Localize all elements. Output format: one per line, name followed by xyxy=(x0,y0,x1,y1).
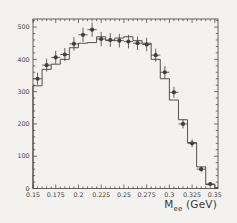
histogram-figure: 0.150.1750.20.2250.250.2750.30.3250.3501… xyxy=(0,0,237,223)
chart-canvas: 0.150.1750.20.2250.250.2750.30.3250.3501… xyxy=(0,0,237,223)
x-axis-tick-label: 0.3 xyxy=(164,191,174,198)
data-point-marker xyxy=(172,90,176,94)
y-axis-tick-label: 500 xyxy=(17,23,29,30)
data-point-marker xyxy=(181,122,185,126)
data-point-marker xyxy=(199,167,203,171)
data-point-marker xyxy=(145,42,149,46)
data-point-marker xyxy=(108,38,112,42)
data-point-marker xyxy=(81,33,85,37)
x-axis-tick-label: 0.275 xyxy=(138,191,156,198)
x-axis-label: Mee (GeV) xyxy=(164,198,217,213)
data-point-marker xyxy=(72,42,76,46)
data-point-marker xyxy=(35,77,39,81)
y-axis-tick-label: 300 xyxy=(17,88,29,95)
data-point-marker xyxy=(99,37,103,41)
x-axis-tick-label: 0.25 xyxy=(117,191,131,198)
plot-frame xyxy=(33,19,218,189)
data-point-marker xyxy=(117,39,121,43)
data-point-marker xyxy=(63,52,67,56)
data-point-marker xyxy=(190,141,194,145)
data-point-marker xyxy=(90,28,94,32)
x-axis-label-unit: (GeV) xyxy=(182,198,217,210)
data-point-marker xyxy=(45,63,49,67)
x-axis-tick-label: 0.2 xyxy=(73,191,83,198)
data-point-marker xyxy=(126,40,130,44)
y-axis-tick-label: 0 xyxy=(25,185,29,192)
y-axis-tick-label: 100 xyxy=(17,152,29,159)
data-point-marker xyxy=(208,182,212,186)
x-axis-tick-label: 0.325 xyxy=(183,191,201,198)
data-point-marker xyxy=(135,41,139,45)
y-axis-tick-label: 400 xyxy=(17,56,29,63)
x-axis-tick-label: 0.175 xyxy=(47,191,65,198)
y-axis-tick-label: 200 xyxy=(17,120,29,127)
data-point-marker xyxy=(154,53,158,57)
step-histogram-line xyxy=(33,37,218,189)
data-point-marker xyxy=(54,55,58,59)
data-point-marker xyxy=(163,70,167,74)
x-axis-tick-label: 0.225 xyxy=(92,191,110,198)
x-axis-tick-label: 0.35 xyxy=(208,191,222,198)
x-axis-tick-label: 0.15 xyxy=(26,191,40,198)
